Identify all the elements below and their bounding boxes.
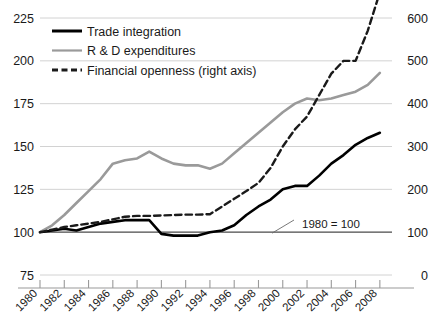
x-axis-tick-label: 1986 [86,287,113,314]
x-axis-tick-label: 1982 [37,287,64,314]
y2-axis-tick-label: 600 [407,12,428,26]
x-axis-tick-label: 1988 [110,287,137,314]
annotation-leader-line [272,220,294,233]
x-axis-tick-label: 1990 [134,287,161,314]
y2-axis-tick-label: 0 [421,269,428,283]
x-axis-tick-label: 2002 [280,287,307,314]
annotation-label: 1980 = 100 [302,218,360,230]
x-axis-tick-label: 2000 [256,287,283,314]
x-axis-tick-label: 1994 [183,287,210,314]
x-axis-tick-label: 1998 [231,287,258,314]
y2-axis-tick-label: 400 [407,97,428,111]
x-axis-tick-label: 2004 [304,287,331,314]
y2-axis-tick-label: 300 [407,140,428,154]
x-axis-tick-label: 1996 [207,287,234,314]
legend-item[interactable]: Financial openness (right axis) [52,64,257,78]
x-axis-tick-label: 1992 [158,287,185,314]
y-axis-tick-label: 150 [13,140,34,154]
legend-label: Financial openness (right axis) [87,64,257,78]
y-axis-tick-label: 100 [13,226,34,240]
series-line-r-d-expenditures [40,73,380,232]
y-axis-right-labels: 0100200300400500600 [407,12,428,283]
y-axis-tick-label: 225 [13,12,34,26]
legend-item[interactable]: R & D expenditures [52,44,195,58]
y-axis-tick-label: 125 [13,183,34,197]
y-axis-tick-label: 75 [20,269,34,283]
y-axis-tick-label: 200 [13,54,34,68]
line-chart: 7510012515017520022501002003004005006001… [0,0,430,335]
chart-container: 7510012515017520022501002003004005006001… [0,0,430,335]
x-axis-tick-label: 1984 [61,287,88,314]
x-axis-tick-label: 1980 [13,287,40,314]
baseline-annotation: 1980 = 100 [272,218,360,233]
y2-axis-tick-label: 500 [407,54,428,68]
y-axis-tick-label: 175 [13,97,34,111]
y2-axis-tick-label: 100 [407,226,428,240]
legend: Trade integrationR & D expendituresFinan… [52,25,257,78]
x-axis: 1980198219841986198819901992199419961998… [13,280,414,314]
legend-item[interactable]: Trade integration [52,25,181,39]
y2-axis-tick-label: 200 [407,183,428,197]
x-axis-tick-label: 2008 [353,287,380,314]
x-axis-tick-label: 2006 [328,287,355,314]
y-axis-left-labels: 75100125150175200225 [13,12,34,283]
legend-label: R & D expenditures [87,44,195,58]
legend-label: Trade integration [87,25,181,39]
